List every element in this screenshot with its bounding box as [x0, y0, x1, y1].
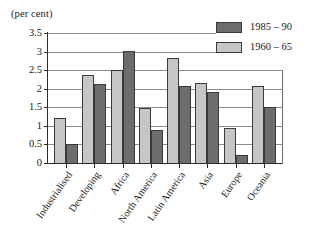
bar-group	[165, 33, 193, 163]
y-axis-tick-label: 3.5	[29, 28, 42, 39]
x-label-cell: Europe	[222, 168, 250, 244]
y-axis-line	[47, 32, 48, 164]
x-axis-labels: IndustrialisedDevelopingAfricaNorth Amer…	[48, 168, 282, 244]
y-axis-tick-label: 1	[37, 121, 42, 132]
bar-group	[52, 33, 80, 163]
y-axis-tick-label: 0	[37, 158, 42, 169]
legend-item: 1960 – 65	[216, 42, 292, 53]
legend-swatch	[216, 42, 242, 53]
bar-group	[80, 33, 108, 163]
y-axis-tick-label: 1.5	[29, 102, 42, 113]
legend-item: 1985 – 90	[216, 22, 292, 33]
bar-group	[109, 33, 137, 163]
x-axis-category-label: Industrialised	[35, 170, 74, 220]
bar	[195, 83, 207, 163]
x-label-cell: Developing	[80, 168, 108, 244]
x-axis-category-label: Africa	[108, 170, 131, 197]
y-axis-tick-label: 3	[37, 46, 42, 57]
chart-legend: 1985 – 901960 – 65	[216, 22, 292, 53]
bar	[66, 144, 78, 163]
plot-right-border	[282, 70, 283, 164]
y-axis-tick-label: 0.5	[29, 139, 42, 150]
bar	[139, 108, 151, 163]
legend-label: 1960 – 65	[250, 42, 292, 53]
chart-units-title: (per cent)	[11, 8, 53, 19]
bar-group	[137, 33, 165, 163]
legend-label: 1985 – 90	[250, 22, 292, 33]
x-label-cell: Asia	[193, 168, 221, 244]
bar	[54, 118, 66, 163]
x-label-cell: Oceania	[250, 168, 278, 244]
legend-swatch	[216, 22, 242, 33]
bar	[264, 107, 276, 163]
bar	[123, 51, 135, 163]
x-axis-category-label: Oceania	[245, 170, 272, 203]
bar	[111, 70, 123, 163]
x-label-cell: Latin America	[165, 168, 193, 244]
bar	[236, 155, 248, 163]
bar	[179, 86, 191, 163]
x-axis-category-label: Europe	[219, 170, 244, 199]
y-axis-tick-label: 2.5	[29, 65, 42, 76]
bar	[82, 75, 94, 163]
bar	[224, 128, 236, 163]
bar-chart: (per cent) 00.511.522.533.5 Industrialis…	[0, 0, 315, 245]
bar	[167, 58, 179, 163]
bar	[151, 130, 163, 163]
x-axis-category-label: Asia	[197, 170, 216, 191]
y-axis-tick-label: 2	[37, 83, 42, 94]
bar	[94, 84, 106, 163]
bar	[252, 86, 264, 163]
bar	[207, 92, 219, 163]
